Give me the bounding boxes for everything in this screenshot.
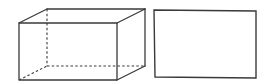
rectangle-drawing [154,10,256,78]
edge-top-left-depth [19,9,47,23]
edge-bottom-right-depth [117,66,145,80]
cuboid-drawing [19,9,145,80]
cuboid-front-face [19,23,117,80]
hidden-edge-bottom-left-depth [19,66,47,80]
figure-canvas [0,0,269,84]
edge-top-right-depth [117,9,145,23]
rectangle-shape [154,10,256,78]
